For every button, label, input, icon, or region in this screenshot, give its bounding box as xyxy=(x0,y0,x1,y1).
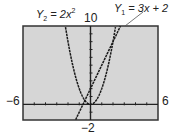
y2-label: Y2 = 2x2 xyxy=(36,7,75,22)
xmax-label: 6 xyxy=(162,95,169,107)
ymin-label: −2 xyxy=(81,122,95,134)
y2-label-expr: = 2x xyxy=(47,8,71,20)
xmin-label: −6 xyxy=(6,95,20,107)
y1-label: Y1 = 3x + 2 xyxy=(114,3,168,16)
ymax-label: 10 xyxy=(84,12,97,24)
y1-label-expr: = 3x + 2 xyxy=(125,2,168,14)
y2-label-sup: 2 xyxy=(71,7,75,14)
